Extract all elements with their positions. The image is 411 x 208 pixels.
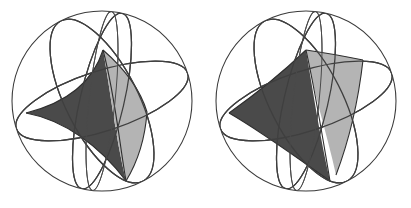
spherical-triangles-figure: Two shaded spherical triangles on great-…	[0, 0, 411, 208]
right-panel	[211, 4, 401, 197]
left-panel	[7, 4, 197, 197]
figure-root: Two shaded spherical triangles on great-…	[0, 0, 411, 208]
